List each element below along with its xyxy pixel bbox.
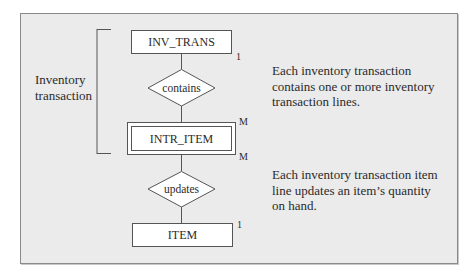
entity-intr-item[interactable]: INTR_ITEM <box>128 123 236 155</box>
cardinality-item: 1 <box>237 219 242 230</box>
description-line: contains one or more inventory <box>272 79 452 95</box>
relationship-updates[interactable]: updates <box>148 172 215 208</box>
cardinality-intr-item-bottom: M <box>239 151 248 162</box>
group-label-line2: transaction <box>35 88 92 104</box>
cardinality-inv-trans: 1 <box>236 51 241 62</box>
description-updates: Each inventory transaction item line upd… <box>272 167 452 214</box>
relationship-contains[interactable]: contains <box>148 70 215 107</box>
description-line: line updates an item’s quantity <box>272 183 452 199</box>
relationship-updates-label: updates <box>164 183 200 196</box>
er-diagram-canvas: INV_TRANS contains INTR_ITEM updates ITE… <box>0 0 474 279</box>
entity-item[interactable]: ITEM <box>133 224 233 247</box>
entity-inv-trans-label: INV_TRANS <box>148 35 215 49</box>
description-line: Each inventory transaction item <box>272 167 452 183</box>
group-bracket <box>97 29 111 154</box>
description-line: transaction lines. <box>272 94 452 110</box>
entity-inv-trans[interactable]: INV_TRANS <box>132 31 232 54</box>
description-line: on hand. <box>272 198 452 214</box>
description-contains: Each inventory transaction contains one … <box>272 63 452 110</box>
entity-intr-item-label: INTR_ITEM <box>150 132 214 146</box>
relationship-contains-label: contains <box>162 82 201 94</box>
entity-item-label: ITEM <box>168 228 198 242</box>
description-line: Each inventory transaction <box>272 63 452 79</box>
cardinality-intr-item-top: M <box>239 116 248 127</box>
group-label-line1: Inventory <box>35 72 92 88</box>
group-label: Inventory transaction <box>35 72 92 104</box>
